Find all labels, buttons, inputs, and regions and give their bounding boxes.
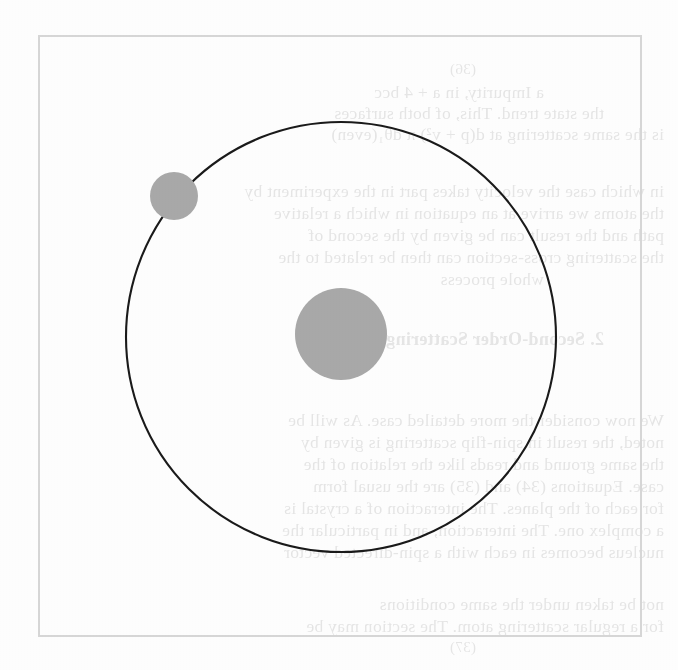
bleed-through-line: (37) — [450, 640, 664, 655]
scanned-page: (36)a Impurity, in a + 4 bccthe state tr… — [0, 0, 678, 670]
figure-frame-border — [38, 35, 642, 637]
